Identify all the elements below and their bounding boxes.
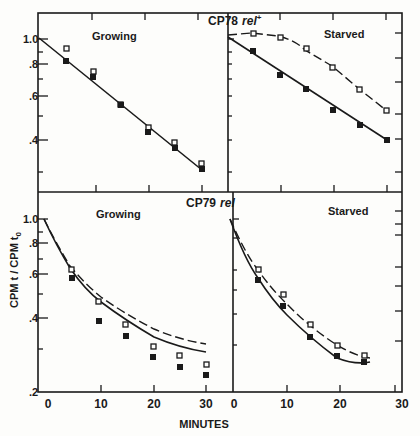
xtick-left-30: 30 (199, 397, 213, 411)
filled-square-markers (69, 275, 209, 378)
x-axis-label: MINUTES (179, 418, 229, 430)
bottom-panel-ticks (38, 211, 402, 392)
open-square-markers (69, 267, 209, 367)
fit-line-dashed (230, 219, 370, 358)
fit-line-solid (230, 219, 370, 363)
xtick-left-0: 0 (45, 397, 52, 411)
top-right-panel (228, 31, 390, 143)
top-strain-label: CP78rel+ (208, 13, 262, 28)
xtick-left-20: 20 (147, 397, 161, 411)
figure: 1.0 .8 .6 .4 1.0 .8 .6 .4 .2 0 10 20 30 … (0, 0, 420, 436)
svg-text:CPM t / CPM t0: CPM t / CPM t0 (8, 231, 23, 308)
bottom-left-condition-label: Growing (96, 208, 141, 220)
x-tick-labels: 0 10 20 30 0 10 20 30 (45, 397, 409, 411)
xtick-right-0: 0 (231, 397, 238, 411)
bottom-right-panel (230, 219, 370, 365)
bottom-right-condition-label: Starved (328, 205, 368, 217)
xtick-right-30: 30 (395, 397, 409, 411)
ytick-bottom-0.2: .2 (29, 386, 38, 398)
ytick-bottom-1.0: 1.0 (23, 213, 38, 225)
top-left-condition-label: Growing (92, 30, 137, 42)
xtick-right-20: 20 (333, 397, 347, 411)
ytick-top-0.6: .6 (29, 90, 38, 102)
ytick-bottom-0.6: .6 (29, 268, 38, 280)
xtick-right-10: 10 (280, 397, 294, 411)
xtick-left-10: 10 (94, 397, 108, 411)
y-axis-label-subscript: 0 (14, 231, 23, 236)
y-tick-labels: 1.0 .8 .6 .4 1.0 .8 .6 .4 .2 (23, 33, 39, 398)
bottom-left-panel (44, 219, 209, 378)
top-left-panel (39, 38, 205, 172)
fit-line-dashed (228, 33, 387, 111)
fit-line-solid (44, 219, 206, 352)
y-axis-label: CPM t / CPM t0 (8, 231, 23, 308)
open-square-markers (251, 31, 389, 113)
ytick-top-0.8: .8 (29, 58, 38, 70)
ytick-top-0.4: .4 (29, 134, 39, 146)
bottom-strain-label: CP79rel (186, 196, 235, 210)
ytick-top-1.0: 1.0 (23, 33, 38, 45)
open-square-markers (256, 267, 367, 358)
y-axis-label-text: CPM t / CPM t (8, 236, 20, 308)
top-right-condition-label: Starved (324, 28, 364, 40)
open-square-markers (64, 46, 204, 166)
ytick-bottom-0.8: .8 (29, 237, 38, 249)
ytick-bottom-0.4: .4 (29, 312, 39, 324)
